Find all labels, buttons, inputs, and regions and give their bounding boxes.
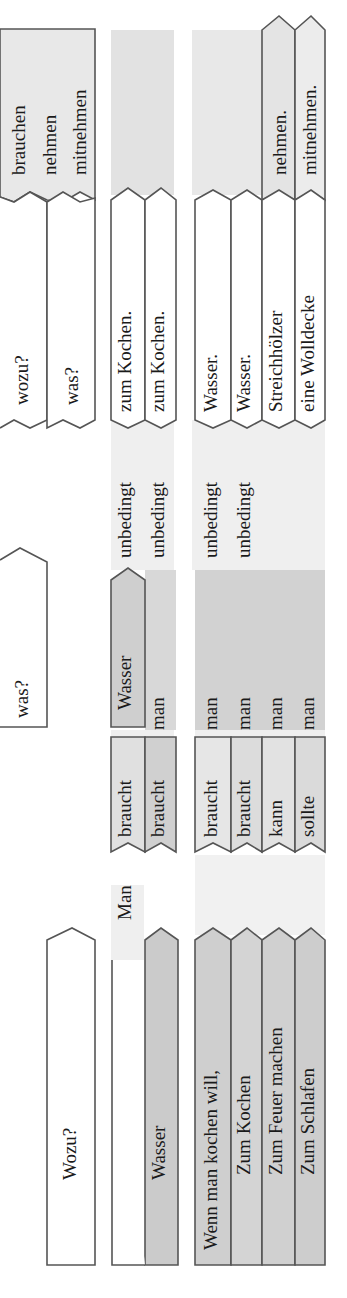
g2-r1-adverb: unbedingt	[201, 482, 220, 558]
verb-brauchen: brauchen	[9, 105, 28, 175]
g1-r2-pre: Wasser	[149, 1126, 168, 1180]
wozu-tile	[47, 928, 95, 1265]
g2-r3-subject: man	[266, 697, 285, 730]
wasser-pre-tile	[145, 928, 178, 1265]
g2-r3-pre: Zum Feuer machen	[266, 1027, 285, 1175]
question-was: was?	[12, 680, 31, 718]
group2-top-band	[192, 30, 262, 195]
g1-subject: Man	[115, 885, 134, 920]
question-was-small: was?	[62, 367, 81, 405]
g2-r1-subject: man	[201, 697, 220, 730]
g2-r3-infinitive: nehmen.	[270, 110, 289, 175]
verb-mitnehmen: mitnehmen	[70, 90, 89, 175]
g1-r2-adverb: unbedingt	[148, 482, 167, 558]
diagram-shapes	[0, 0, 347, 1298]
g2-r1-object: Wasser.	[201, 354, 220, 412]
g1-r2-subject: man	[148, 697, 167, 730]
g2-r1-verb: braucht	[201, 780, 220, 837]
g2-r2-subject: man	[234, 697, 253, 730]
verb-nehmen: nehmen	[40, 115, 59, 175]
empty-pre-tile	[112, 960, 145, 1265]
g2-r4-verb: sollte	[298, 796, 317, 837]
g2-r2-verb: braucht	[234, 780, 253, 837]
g2-r4-pre: Zum Schlafen	[298, 1068, 317, 1175]
g1-r2-purpose: zum Kochen.	[148, 311, 167, 412]
g2-r2-adverb: unbedingt	[234, 482, 253, 558]
g2-r4-infinitive: mitnehmen.	[300, 85, 319, 175]
g1-r1-purpose: zum Kochen.	[115, 311, 134, 412]
g2-r2-object: Wasser.	[234, 354, 253, 412]
group2-gap-band	[195, 855, 325, 935]
g2-r2-pre: Zum Kochen	[234, 1075, 253, 1175]
question-wozu-small: wozu?	[12, 355, 31, 405]
group1-infinitive-band	[111, 30, 174, 195]
g1-r1-adverb: unbedingt	[115, 482, 134, 558]
g1-r2-verb: braucht	[148, 780, 167, 837]
g1-r1-verb: braucht	[115, 780, 134, 837]
g2-r3-object: Streichhölzer	[266, 311, 285, 412]
g2-r4-object: eine Wolldecke	[298, 295, 317, 412]
g2-r4-subject: man	[298, 697, 317, 730]
g1-r1-object: Wasser	[115, 656, 134, 710]
g2-r3-verb: kann	[266, 800, 285, 837]
question-wozu: Wozu?	[60, 1128, 79, 1180]
g2-r1-pre: Wenn man kochen will,	[201, 1070, 220, 1250]
